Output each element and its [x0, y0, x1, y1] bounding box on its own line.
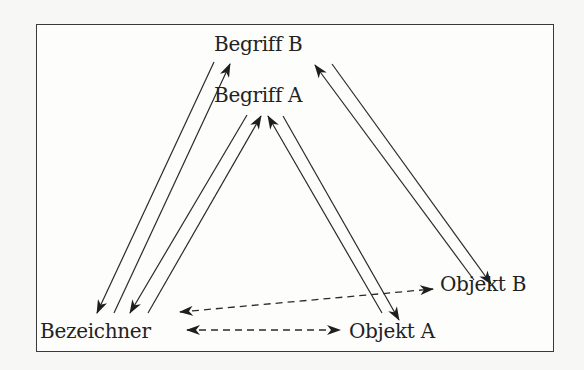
- edge-objekt-b-to-begriff-b: [315, 65, 474, 280]
- node-begriff-b: Begriff B: [214, 34, 302, 54]
- edge-bezeichner-objekt-b-dashed: [180, 289, 433, 312]
- edge-begriff-b-to-objekt-b: [332, 64, 491, 284]
- edge-objekt-a-to-begriff-a: [268, 116, 382, 313]
- node-objekt-a: Objekt A: [349, 321, 435, 341]
- node-bezeichner: Bezeichner: [40, 321, 151, 341]
- node-begriff-a: Begriff A: [214, 85, 302, 105]
- edge-begriff-a-to-bezeichner: [130, 115, 247, 313]
- edge-bezeichner-to-begriff-b: [114, 64, 230, 313]
- diagram-canvas: Begriff B Begriff A Bezeichner Objekt A …: [0, 0, 584, 370]
- edge-begriff-b-to-bezeichner: [97, 62, 214, 313]
- node-objekt-b: Objekt B: [440, 274, 526, 294]
- edge-begriff-a-to-objekt-a: [283, 116, 399, 320]
- edge-bezeichner-to-begriff-a: [148, 116, 261, 313]
